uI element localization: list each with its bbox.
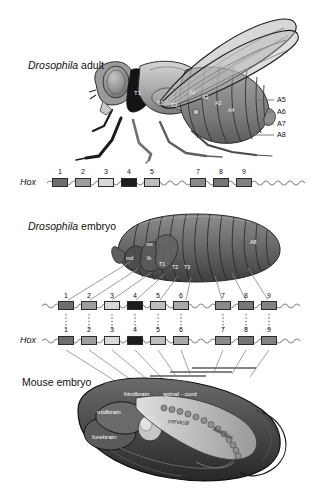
hox-embryo-gene-box-7: [215, 301, 231, 310]
mouse-region-midbrain: midbrain: [97, 409, 121, 415]
adult-segment-A7: A7: [277, 120, 286, 127]
adult-segment-A2: A2: [202, 95, 208, 100]
hox-adult-gene-number-2: 2: [75, 168, 91, 175]
hox-fly-gene-number-7: 7: [215, 326, 231, 333]
hox-embryo-gene-number-5: 5: [150, 292, 166, 299]
hox-embryo-gene-box-6: [173, 301, 189, 310]
hox-fly-gene-number-3: 3: [104, 326, 120, 333]
hox-fly-gene-box-2: [81, 336, 97, 345]
hox-embryo-gene-box-9: [261, 301, 277, 310]
hox-fly-gene-number-1: 1: [58, 326, 74, 333]
hox-fly-gene-box-6: [173, 336, 189, 345]
adult-segment-T3: T3: [171, 103, 177, 108]
hox-fly-gene-number-6: 6: [173, 326, 189, 333]
embryo-segment-md: md: [126, 256, 133, 261]
hox-fly-gene-box-3: [104, 336, 120, 345]
hox-fly-gene-box-4: [127, 336, 143, 345]
adult-segment-A1: A1: [189, 90, 195, 95]
hox-embryo-gene-number-8: 8: [238, 292, 254, 299]
adult-segment-A5: A5: [277, 96, 286, 103]
hox-embryo-gene-box-1: [58, 301, 74, 310]
hox-adult-gene-box-9: [236, 178, 252, 187]
embryo-segment-T1: T1: [159, 262, 165, 267]
hox-fly-gene-number-9: 9: [261, 326, 277, 333]
hox-adult-gene-number-3: 3: [98, 168, 114, 175]
hox-adult-gene-number-9: 9: [236, 168, 252, 175]
hox-fly-gene-box-5: [150, 336, 166, 345]
hox-embryo-gene-box-2: [81, 301, 97, 310]
embryo-segment-A8: A8: [250, 240, 256, 245]
hox-fly-gene-box-8: [238, 336, 254, 345]
hox-label-adult: Hox: [20, 178, 36, 187]
adult-panel-title: Drosophila adult: [28, 60, 104, 71]
adult-segment-A6: A6: [277, 108, 286, 115]
hox-adult-gene-box-4: [121, 178, 137, 187]
adult-segment-A3: A3: [215, 101, 221, 106]
mouse-panel-title: Mouse embryo: [22, 377, 91, 388]
hox-adult-gene-box-7: [190, 178, 206, 187]
hox-embryo-gene-number-4: 4: [127, 292, 143, 299]
hox-embryo-gene-box-5: [150, 301, 166, 310]
hox-fly-gene-number-4: 4: [127, 326, 143, 333]
embryo-segment-T3: T3: [184, 265, 190, 270]
hox-embryo-gene-number-1: 1: [58, 292, 74, 299]
hox-embryo-gene-number-3: 3: [104, 292, 120, 299]
hox-embryo-gene-number-9: 9: [261, 292, 277, 299]
hox-embryo-gene-number-6: 6: [173, 292, 189, 299]
hox-adult-gene-number-7: 7: [190, 168, 206, 175]
hox-fly-gene-box-9: [261, 336, 277, 345]
hox-adult-gene-box-5: [144, 178, 160, 187]
hox-fly-gene-box-1: [58, 336, 74, 345]
hox-adult-gene-number-4: 4: [121, 168, 137, 175]
adult-segment-T1: T1: [134, 90, 141, 96]
mouse-region-hindbrain: hindbrain: [124, 391, 149, 397]
hox-embryo-gene-box-3: [104, 301, 120, 310]
hox-adult-gene-box-8: [213, 178, 229, 187]
hox-fly-gene-box-7: [215, 336, 231, 345]
hox-embryo-gene-number-7: 7: [215, 292, 231, 299]
hox-embryo-gene-box-4: [127, 301, 143, 310]
hox-embryo-gene-box-8: [238, 301, 254, 310]
hox-adult-gene-number-5: 5: [144, 168, 160, 175]
hox-adult-gene-box-2: [75, 178, 91, 187]
figure-artwork: [0, 0, 321, 488]
hox-embryo-gene-number-2: 2: [81, 292, 97, 299]
drosophila-adult-illustration: [76, 19, 298, 163]
drosophila-embryo-illustration: [112, 214, 280, 282]
embryo-segment-lb: lb: [147, 256, 151, 261]
hox-adult-gene-number-8: 8: [213, 168, 229, 175]
hox-label-fly-lower: Hox: [20, 336, 36, 345]
hox-fly-gene-number-2: 2: [81, 326, 97, 333]
adult-segment-A4: A4: [228, 108, 234, 113]
adult-segment-A8: A8: [277, 131, 286, 138]
hox-adult-gene-number-1: 1: [52, 168, 68, 175]
adult-segment-T2: T2: [157, 101, 163, 106]
hox-adult-gene-box-3: [98, 178, 114, 187]
embryo-segment-T2: T2: [172, 265, 178, 270]
hox-fly-gene-number-5: 5: [150, 326, 166, 333]
embryo-panel-title: Drosophila embryo: [28, 221, 116, 232]
mouse-region-forebrain: forebrain: [92, 434, 116, 440]
hox-fly-gene-number-8: 8: [238, 326, 254, 333]
hox-adult-gene-box-1: [52, 178, 68, 187]
embryo-segment-mx: mx: [146, 242, 153, 247]
figure-root: Drosophila adult T1 T2 T3 A1 A2 A3 A4 A5…: [0, 0, 321, 488]
mouse-region-spinal-cord: spinal - cord: [163, 391, 197, 397]
